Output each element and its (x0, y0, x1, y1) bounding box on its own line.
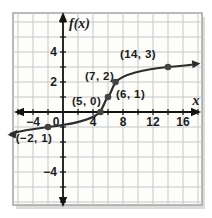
y-axis-label: f(x) (69, 16, 90, 32)
y-tick-label: −4 (43, 165, 57, 179)
point-label: (5, 0) (72, 95, 101, 107)
x-axis-label: x (192, 93, 200, 108)
x-tick-label: 8 (120, 115, 127, 129)
point-label: (14, 3) (120, 48, 156, 60)
x-tick-label: 12 (146, 115, 160, 129)
data-point (97, 109, 104, 116)
data-point (45, 124, 52, 131)
point-label: (6, 1) (116, 88, 145, 100)
graph-figure: −4048121642−4 (−2, 1)(5, 0)(6, 1)(7, 2)(… (0, 0, 212, 218)
y-tick-label: 4 (50, 45, 57, 59)
x-tick-label: 16 (176, 115, 190, 129)
x-tick-label: −4 (26, 115, 40, 129)
data-point (165, 64, 172, 71)
point-label: (−2, 1) (16, 132, 52, 144)
data-point (105, 94, 112, 101)
y-tick-label: 2 (50, 75, 57, 89)
point-label: (7, 2) (85, 70, 114, 82)
function-graph-canvas: −4048121642−4 (−2, 1)(5, 0)(6, 1)(7, 2)(… (0, 0, 212, 218)
